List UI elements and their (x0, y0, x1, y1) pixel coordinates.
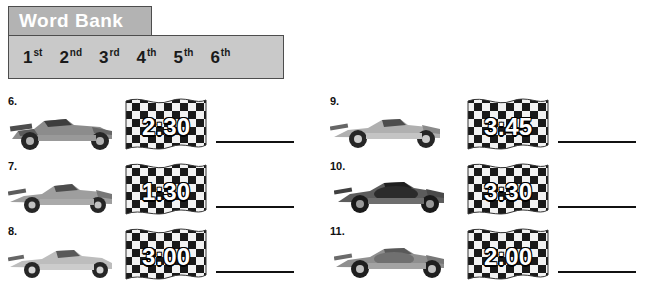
word-bank-title: Word Bank (8, 6, 152, 36)
checkered-flag-7: 1:30 (124, 160, 208, 224)
race-car-11-icon (334, 239, 448, 281)
answer-blank-7[interactable] (216, 206, 294, 208)
race-car-7-icon (8, 172, 116, 216)
problem-6: 6. (0, 95, 320, 160)
word-bank-option-5th: 5th (173, 47, 193, 68)
problem-11-number: 11. (330, 225, 345, 237)
worksheet-page: Word Bank 1st 2nd 3rd 4th 5th 6th 6. (0, 0, 652, 293)
answer-blank-9[interactable] (558, 141, 636, 143)
problem-9-number: 9. (330, 95, 339, 107)
problem-7-number: 7. (8, 160, 17, 172)
checkered-flag-8: 3:00 (124, 225, 208, 289)
word-bank-options: 1st 2nd 3rd 4th 5th 6th (8, 35, 284, 79)
checkered-flag-9: 3:45 (466, 95, 550, 159)
problem-10: 10. (330, 160, 650, 225)
word-bank: Word Bank 1st 2nd 3rd 4th 5th 6th (8, 6, 284, 84)
problem-8: 8. (0, 225, 320, 290)
flag-time-11: 2:00 (466, 225, 550, 289)
answer-blank-6[interactable] (216, 141, 294, 143)
flag-time-9: 3:45 (466, 95, 550, 159)
problem-11: 11. (330, 225, 650, 290)
answer-blank-11[interactable] (558, 271, 636, 273)
checkered-flag-6: 2:30 (124, 95, 208, 159)
race-car-8-icon (8, 239, 116, 281)
flag-time-7: 1:30 (124, 160, 208, 224)
flag-time-8: 3:00 (124, 225, 208, 289)
word-bank-option-1st: 1st (23, 47, 42, 68)
checkered-flag-11: 2:00 (466, 225, 550, 289)
word-bank-option-3rd: 3rd (99, 47, 119, 68)
race-car-6-icon (8, 105, 116, 151)
checkered-flag-10: 3:30 (466, 160, 550, 224)
answer-blank-10[interactable] (558, 206, 636, 208)
problem-10-number: 10. (330, 160, 345, 172)
word-bank-option-2nd: 2nd (59, 47, 82, 68)
race-car-9-icon (330, 107, 444, 151)
flag-time-10: 3:30 (466, 160, 550, 224)
word-bank-option-6th: 6th (210, 47, 230, 68)
problem-8-number: 8. (8, 225, 17, 237)
word-bank-option-4th: 4th (137, 47, 157, 68)
problem-9: 9. (330, 95, 650, 160)
answer-blank-8[interactable] (216, 271, 294, 273)
flag-time-6: 2:30 (124, 95, 208, 159)
race-car-10-icon (334, 172, 448, 216)
problem-7: 7. (0, 160, 320, 225)
